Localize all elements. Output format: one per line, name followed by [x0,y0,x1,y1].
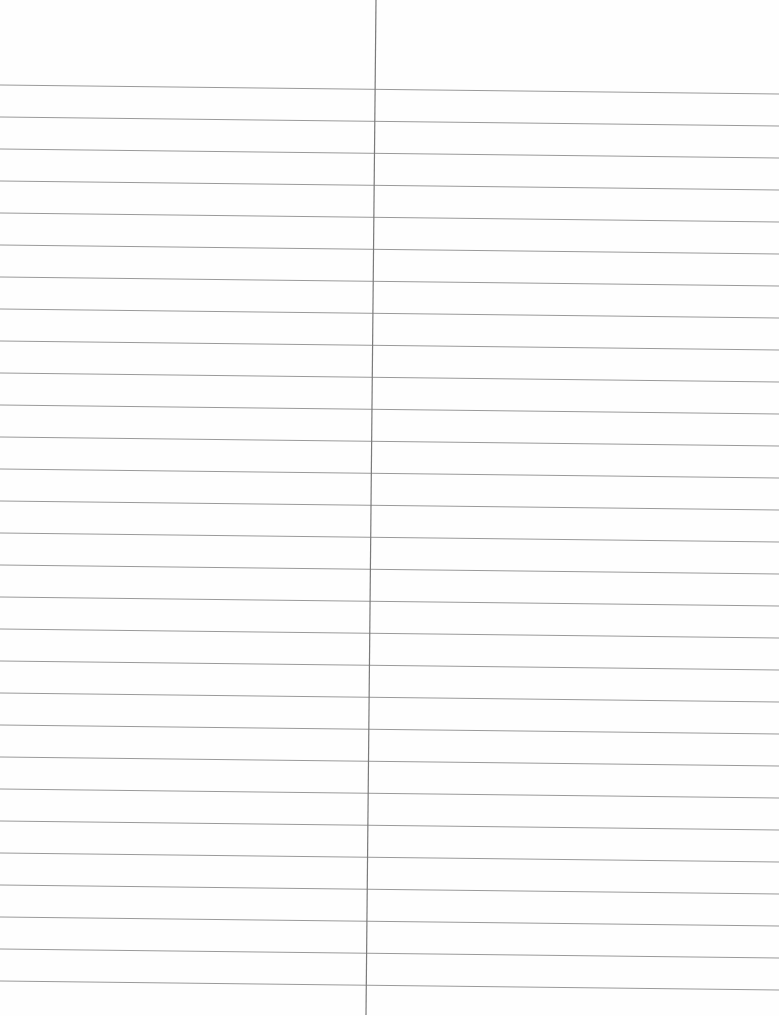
rule-line [0,117,779,126]
rule-line [0,565,779,574]
rule-line [0,181,779,190]
rule-line [0,373,779,382]
rule-line [0,469,779,478]
rule-line [0,917,779,926]
rule-line [0,853,779,862]
rule-line [0,277,779,286]
rule-line [0,757,779,766]
rule-line [0,949,779,958]
rule-line [0,437,779,446]
column-divider [366,0,376,1015]
ruled-lines [0,0,779,1016]
rule-line [0,341,779,350]
rule-line [0,629,779,638]
rule-line [0,597,779,606]
ruled-page [0,0,779,1016]
rule-line [0,213,779,222]
rule-line [0,501,779,510]
rule-line [0,725,779,734]
rule-line [0,661,779,670]
rule-line [0,693,779,702]
rule-line [0,789,779,798]
rule-line [0,533,779,542]
rule-line [0,245,779,254]
rule-line [0,885,779,894]
rule-line [0,821,779,830]
rule-line [0,149,779,158]
rule-line [0,405,779,414]
rule-line [0,981,779,990]
rule-line [0,309,779,318]
rule-line [0,85,779,94]
